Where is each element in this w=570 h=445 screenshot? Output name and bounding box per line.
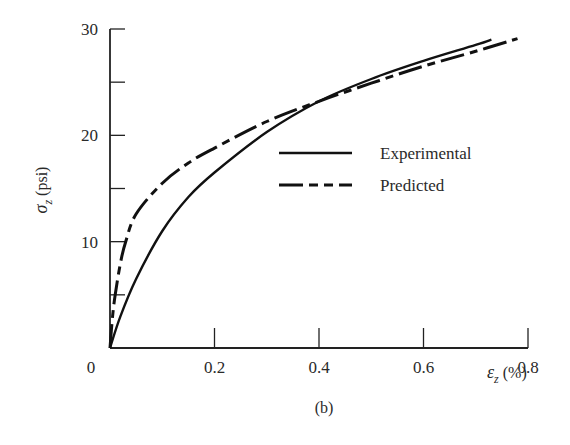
y-tick-label: 30 bbox=[81, 20, 98, 39]
legend-label-experimental: Experimental bbox=[380, 144, 472, 163]
series-predicted bbox=[110, 39, 518, 348]
axes bbox=[110, 29, 528, 348]
y-axis-label: σz (psi) bbox=[31, 167, 55, 214]
stress-strain-chart: 10203000.20.40.60.8 Experimental Predict… bbox=[0, 0, 570, 445]
figure-caption: (b) bbox=[315, 399, 334, 417]
x-tick-label: 0.4 bbox=[308, 358, 330, 377]
legend-label-predicted: Predicted bbox=[380, 176, 445, 195]
legend: Experimental Predicted bbox=[279, 144, 472, 195]
y-tick-label: 20 bbox=[81, 126, 98, 145]
data-series bbox=[110, 39, 518, 348]
x-tick-label: 0.2 bbox=[204, 358, 225, 377]
y-tick-label: 10 bbox=[81, 233, 98, 252]
tick-labels: 10203000.20.40.60.8 bbox=[81, 20, 539, 377]
x-axis-unit: (%) bbox=[503, 364, 527, 382]
y-axis-unit: (psi) bbox=[33, 167, 51, 196]
x-tick-label: 0.6 bbox=[413, 358, 434, 377]
x-axis-label: εz (%) bbox=[487, 362, 527, 386]
x-tick-label: 0 bbox=[87, 358, 96, 377]
svg-text:σz (psi): σz (psi) bbox=[31, 167, 55, 214]
ticks bbox=[110, 29, 528, 348]
